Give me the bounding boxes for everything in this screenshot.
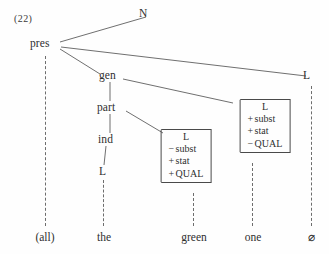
edge-pres-lright	[61, 47, 306, 76]
matrix-right-sign-2: −	[248, 138, 255, 150]
matrix-left-feature-0: subst	[176, 143, 197, 154]
matrix-left-row-0: −subst	[169, 143, 204, 155]
projection-line-all	[45, 56, 46, 226]
matrix-right-row-1: +stat	[248, 125, 283, 137]
edge-ind-l	[104, 146, 106, 165]
terminal-one: one	[245, 231, 262, 243]
terminal-all: (all)	[35, 231, 54, 243]
matrix-left-sign-0: −	[169, 143, 176, 155]
matrix-left-row-2: +QUAL	[169, 168, 204, 180]
terminal-green: green	[181, 231, 207, 243]
edge-pres-gen	[60, 49, 100, 74]
projection-line-one	[252, 163, 253, 226]
matrix-right-row-0: +subst	[248, 113, 283, 125]
node-l-right: L	[303, 70, 310, 82]
node-gen: gen	[99, 70, 116, 82]
matrix-left-feature-2: QUAL	[176, 168, 204, 179]
matrix-right-sign-1: +	[248, 125, 255, 137]
matrix-right-head: L	[248, 101, 283, 113]
edge-pres-n	[60, 17, 146, 42]
edge-part-leftmatrix	[126, 111, 163, 133]
matrix-right-feature-0: subst	[255, 113, 276, 124]
matrix-right-sign-0: +	[248, 113, 255, 125]
edge-gen-rightmatrix	[123, 79, 233, 103]
node-pres: pres	[30, 38, 50, 50]
example-number: (22)	[14, 13, 32, 24]
matrix-left-feature-1: stat	[176, 155, 190, 166]
matrix-left-sign-2: +	[169, 168, 176, 180]
projection-line-null	[311, 86, 312, 226]
projection-line-the	[103, 180, 104, 226]
matrix-left-row-1: +stat	[169, 155, 204, 167]
terminal-the: the	[97, 231, 111, 243]
matrix-left-sign-1: +	[169, 155, 176, 167]
matrix-right-row-2: −QUAL	[248, 138, 283, 150]
node-l-ind: L	[99, 166, 106, 178]
feature-matrix-right: L +subst +stat −QUAL	[240, 100, 291, 152]
terminal-null: ⌀	[308, 230, 315, 244]
feature-matrix-left: L −subst +stat +QUAL	[161, 130, 212, 182]
projection-line-green	[193, 193, 194, 226]
tree-diagram-canvas: (22) N pres L gen part ind L L	[0, 0, 329, 254]
matrix-right-feature-2: QUAL	[255, 138, 283, 149]
node-n: N	[139, 8, 147, 20]
matrix-left-head: L	[169, 131, 204, 143]
node-part: part	[97, 102, 115, 114]
matrix-right-feature-1: stat	[255, 125, 269, 136]
node-ind: ind	[98, 134, 113, 146]
